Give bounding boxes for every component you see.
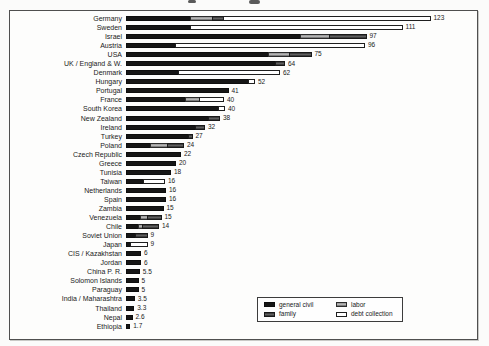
stacked-bar — [126, 70, 280, 75]
stacked-bar — [126, 278, 139, 283]
bar-segment-civil — [126, 197, 166, 202]
value-label: 15 — [165, 214, 172, 221]
bar-row: Ireland32 — [10, 123, 477, 132]
stacked-bar — [126, 79, 255, 84]
bar-row: South Korea40 — [10, 104, 477, 113]
bar-row: Austria96 — [10, 41, 477, 50]
value-label: 16 — [168, 178, 175, 185]
bar-segment-family — [147, 215, 162, 220]
value-label: 3.5 — [138, 296, 147, 303]
stacked-bar — [126, 242, 148, 247]
bar-segment-civil — [126, 97, 186, 102]
value-label: 64 — [288, 61, 295, 68]
bar-row: Venezuela15 — [10, 213, 477, 222]
bar-segment-civil — [126, 88, 229, 93]
country-label: New Zealand — [10, 115, 126, 122]
stacked-bar — [126, 143, 184, 148]
bar-row: Japan9 — [10, 240, 477, 249]
bar-row: Paraguay5 — [10, 285, 477, 294]
stacked-bar — [126, 106, 225, 111]
bar-row: Germany123 — [10, 14, 477, 23]
bar-segment-debt — [130, 242, 148, 247]
bar-row: Jordan6 — [10, 258, 477, 267]
value-label: 14 — [162, 223, 169, 230]
value-label: 24 — [187, 142, 194, 149]
legend: general civil labor family debt collecti… — [257, 297, 403, 322]
country-label: Turkey — [10, 133, 126, 140]
country-label: China P. R. — [10, 268, 126, 275]
value-label: 6 — [144, 260, 148, 267]
bar-row: Greece20 — [10, 159, 477, 168]
country-label: Chile — [10, 223, 126, 230]
value-label: 75 — [315, 51, 322, 58]
bar-row: Turkey27 — [10, 132, 477, 141]
bar-segment-civil — [126, 215, 141, 220]
bar-segment-family — [289, 52, 312, 57]
country-label: Zambia — [10, 205, 126, 212]
bar-segment-family — [167, 143, 185, 148]
bar-row: Chile14 — [10, 222, 477, 231]
bar-segment-civil — [126, 161, 176, 166]
bar-row: Nepal2.6 — [10, 313, 477, 322]
bar-row: Israel97 — [10, 32, 477, 41]
stacked-bar — [126, 25, 403, 30]
bar-segment-civil — [126, 324, 130, 329]
stacked-bar — [126, 251, 141, 256]
plot-area: Germany123Sweden111Israel97Austria96USA7… — [10, 14, 477, 331]
debt-collection-swatch-icon — [336, 312, 347, 317]
bar-segment-civil — [126, 143, 151, 148]
bar-segment-civil — [126, 16, 191, 21]
legend-label: general civil — [279, 302, 313, 309]
bar-row: China P. R.5.5 — [10, 267, 477, 276]
country-label: Portugal — [10, 87, 126, 94]
value-label: 18 — [174, 169, 181, 176]
bar-segment-civil — [126, 106, 219, 111]
bar-segment-civil — [126, 70, 179, 75]
country-label: USA — [10, 51, 126, 58]
value-label: 41 — [232, 88, 239, 95]
country-label: Austria — [10, 42, 126, 49]
bar-segment-civil — [126, 206, 164, 211]
country-label: Sweden — [10, 24, 126, 31]
country-label: Germany — [10, 15, 126, 22]
country-label: CIS / Kazakhstan — [10, 250, 126, 257]
bar-row: India / Maharashtra3.5 — [10, 294, 477, 303]
stacked-bar — [126, 233, 148, 238]
bar-segment-labor — [185, 97, 200, 102]
stacked-bar — [126, 116, 220, 121]
bar-row: Thailand3.3 — [10, 304, 477, 313]
country-label: India / Maharashtra — [10, 295, 126, 302]
stacked-bar — [126, 206, 164, 211]
bar-row: France40 — [10, 95, 477, 104]
stacked-bar — [126, 224, 159, 229]
legend-item-debt-collection: debt collection — [336, 311, 396, 318]
bar-segment-civil — [126, 52, 269, 57]
value-label: 40 — [228, 106, 235, 113]
value-label: 5 — [142, 278, 146, 285]
bar-row: Taiwan16 — [10, 177, 477, 186]
stacked-bar — [126, 188, 166, 193]
bar-row: UK / England & W.64 — [10, 59, 477, 68]
stacked-bar — [126, 152, 181, 157]
bar-segment-family — [195, 125, 205, 130]
country-label: Jordan — [10, 259, 126, 266]
stacked-bar — [126, 52, 312, 57]
scanned-page: Germany123Sweden111Israel97Austria96USA7… — [0, 0, 489, 346]
value-label: 111 — [406, 24, 416, 31]
bar-segment-family — [188, 134, 193, 139]
bar-segment-civil — [126, 260, 141, 265]
bar-segment-civil — [126, 61, 276, 66]
bar-segment-civil — [126, 25, 191, 30]
stacked-bar — [126, 296, 135, 301]
bar-segment-debt — [143, 179, 166, 184]
value-label: 52 — [258, 79, 265, 86]
general-civil-swatch-icon — [264, 302, 275, 307]
bar-segment-labor — [300, 34, 330, 39]
bar-row: USA75 — [10, 50, 477, 59]
country-label: Tunisia — [10, 169, 126, 176]
bar-row: Czech Republic22 — [10, 150, 477, 159]
country-label: Netherlands — [10, 187, 126, 194]
stacked-bar — [126, 134, 193, 139]
value-label: 15 — [167, 205, 174, 212]
bar-segment-debt — [175, 43, 365, 48]
